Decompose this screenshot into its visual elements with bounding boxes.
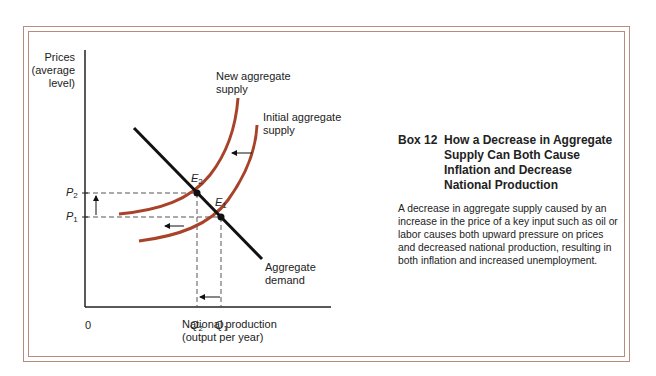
q1-label: Q1 <box>215 319 228 333</box>
box-number: Box 12 <box>398 133 444 193</box>
box-caption: Box 12 How a Decrease in Aggregate Suppl… <box>398 133 620 267</box>
new-supply-label: New aggregatesupply <box>216 70 291 96</box>
initial-supply-label: Initial aggregatesupply <box>263 111 341 137</box>
demand-label: Aggregatedemand <box>265 261 316 287</box>
e2-point <box>194 190 201 197</box>
e1-label: E1 <box>215 196 227 210</box>
origin-label: 0 <box>85 319 91 332</box>
p2-label: P2 <box>66 186 78 200</box>
e2-label: E2 <box>191 172 203 186</box>
box-title: How a Decrease in Aggregate Supply Can B… <box>444 133 620 193</box>
box-body: A decrease in aggregate supply caused by… <box>398 202 620 267</box>
p1-label: P1 <box>66 210 78 224</box>
y-axis-label: Prices (average level) <box>30 51 75 90</box>
q2-label: Q2 <box>190 319 203 333</box>
e1-point <box>218 214 225 221</box>
